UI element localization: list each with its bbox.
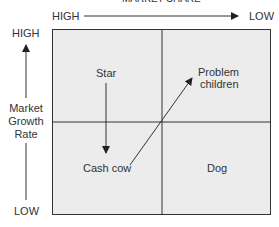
quadrant-label-line: Problem: [198, 66, 239, 78]
quadrant-label-line: children: [198, 78, 239, 90]
quadrant-cash-cow-label: Cash cow: [83, 162, 131, 174]
quadrant-star-label: Star: [96, 67, 116, 79]
quadrant-problem-children-label: Problem children: [198, 66, 239, 90]
quadrant-dog-label: Dog: [207, 162, 227, 174]
diagram-lines: [0, 0, 279, 227]
